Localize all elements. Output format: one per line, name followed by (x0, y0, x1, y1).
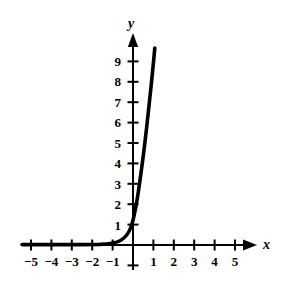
y-tick-label-4: 4 (105, 157, 121, 170)
x-tick-label-4: 4 (204, 255, 226, 268)
x-tick-label-3: 3 (183, 255, 205, 268)
exponential-graph-figure: 1 2 3 4 5 6 7 8 9 −5 −4 −3 −2 −1 1 2 3 4… (0, 0, 285, 292)
x-tick-label-minus-2: −2 (81, 255, 103, 268)
exponential-curve (22, 48, 155, 245)
x-tick-label-2: 2 (163, 255, 185, 268)
y-tick-label-2: 2 (105, 198, 121, 211)
coordinate-plane (0, 0, 285, 292)
x-tick-label-1: 1 (142, 255, 164, 268)
x-tick-label-minus-3: −3 (61, 255, 83, 268)
x-tick-label-minus-1: −1 (102, 255, 124, 268)
x-axis-name: x (263, 238, 270, 252)
y-tick-label-5: 5 (105, 137, 121, 150)
y-tick-label-8: 8 (105, 75, 121, 88)
x-tick-label-5: 5 (224, 255, 246, 268)
y-axis (128, 33, 138, 270)
y-tick-label-7: 7 (105, 96, 121, 109)
x-tick-label-minus-5: −5 (20, 255, 42, 268)
x-tick-label-minus-4: −4 (40, 255, 62, 268)
y-tick-label-1: 1 (105, 219, 121, 232)
y-tick-label-6: 6 (105, 116, 121, 129)
y-tick-label-3: 3 (105, 178, 121, 191)
y-axis-name: y (128, 17, 134, 31)
y-tick-label-9: 9 (105, 55, 121, 68)
